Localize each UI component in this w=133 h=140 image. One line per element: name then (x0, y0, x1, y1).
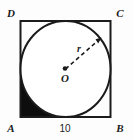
center-label-o: O (61, 72, 69, 84)
vertex-label-d: D (6, 7, 15, 19)
geometry-figure: D C A B O r 10 (0, 0, 133, 140)
center-point-dot (63, 66, 68, 71)
geometry-canvas: D C A B O r 10 (0, 0, 133, 140)
vertex-label-c: C (116, 7, 124, 19)
vertex-label-b: B (115, 122, 123, 134)
vertex-label-a: A (6, 122, 14, 134)
side-length-label: 10 (59, 123, 71, 134)
radius-label-r: r (77, 43, 81, 54)
